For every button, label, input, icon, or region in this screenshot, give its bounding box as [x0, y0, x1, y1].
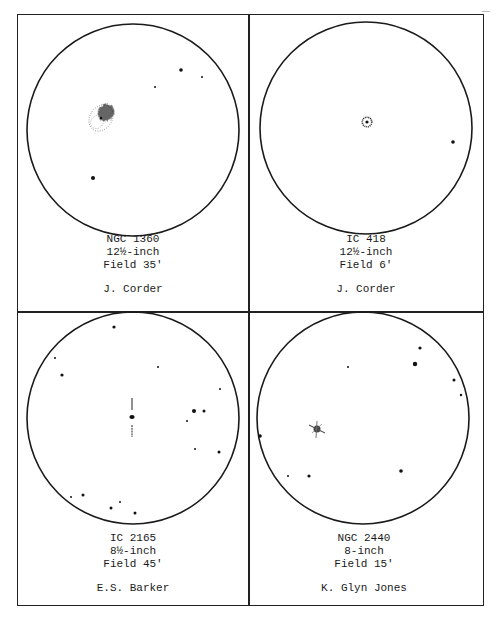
star-icon	[70, 496, 72, 498]
star-icon	[60, 373, 63, 376]
nebula-ic418-icon	[362, 117, 372, 127]
star-icon	[307, 474, 310, 477]
star-icon	[218, 451, 221, 454]
star-icon	[460, 394, 462, 396]
star-icon	[347, 366, 349, 368]
observer: J. Corder	[33, 283, 233, 296]
field-size: Field 35'	[33, 259, 233, 272]
field-of-view-circle	[257, 312, 469, 524]
caption-ngc1360: NGC 1360 12½-inch Field 35' J. Corder	[33, 233, 233, 296]
aperture: 8-inch	[264, 545, 464, 558]
star-icon	[451, 140, 455, 144]
object-name: NGC 2440	[264, 532, 464, 545]
object-name: IC 418	[266, 233, 466, 246]
object-name: NGC 1360	[33, 233, 233, 246]
nebula-ngc1360-icon	[84, 100, 118, 136]
star-icon	[179, 68, 183, 72]
aperture: 8½-inch	[33, 545, 233, 558]
star-icon	[157, 366, 159, 368]
star-icon	[194, 448, 196, 450]
observer: J. Corder	[266, 283, 466, 296]
star-icon	[413, 362, 417, 366]
star-icon	[154, 86, 156, 88]
star-icon	[82, 494, 85, 497]
star-icon	[134, 512, 137, 515]
star-icon	[219, 388, 221, 390]
aperture: 12½-inch	[33, 246, 233, 259]
nebula-ngc2440-icon	[309, 421, 325, 438]
star-icon	[54, 357, 56, 359]
star-icon	[192, 409, 196, 413]
aperture: 12½-inch	[266, 246, 466, 259]
caption-ngc2440: NGC 2440 8-inch Field 15' K. Glyn Jones	[264, 532, 464, 595]
observer: E.S. Barker	[33, 582, 233, 595]
field-size: Field 15'	[264, 558, 464, 571]
field-of-view-circle	[27, 24, 239, 236]
star-icon	[110, 507, 113, 510]
star-icon	[453, 379, 456, 382]
star-icon	[112, 325, 115, 328]
field-size: Field 6'	[266, 259, 466, 272]
star-icon	[399, 469, 403, 473]
star-icon	[418, 346, 421, 349]
object-name: IC 2165	[33, 532, 233, 545]
star-icon	[119, 501, 121, 503]
star-icon	[186, 420, 188, 422]
star-icon	[258, 434, 262, 438]
field-size: Field 45'	[33, 558, 233, 571]
field-of-view-circle	[260, 22, 472, 234]
star-icon	[201, 76, 203, 78]
star-icon	[91, 176, 95, 180]
star-icon	[287, 475, 289, 477]
caption-ic418: IC 418 12½-inch Field 6' J. Corder	[266, 233, 466, 296]
caption-ic2165: IC 2165 8½-inch Field 45' E.S. Barker	[33, 532, 233, 595]
star-icon	[203, 410, 206, 413]
observer: K. Glyn Jones	[264, 582, 464, 595]
nebula-ic2165-icon	[129, 398, 134, 437]
